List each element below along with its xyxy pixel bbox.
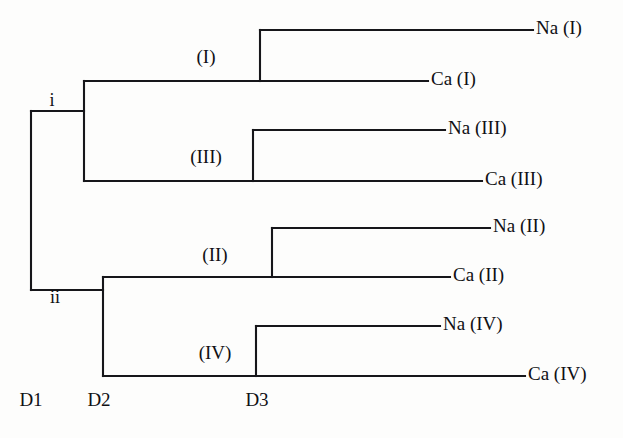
leaf-ca-4-label: Ca (IV) xyxy=(528,363,587,385)
node-group-i-label: i xyxy=(49,90,54,110)
leaf-na-3-label: Na (III) xyxy=(448,117,507,139)
leaf-label-group: Na (I)Ca (I)Na (III)Ca (III)Na (II)Ca (I… xyxy=(431,17,587,385)
node-clade-2-label: (II) xyxy=(202,244,227,266)
leaf-na-4-label: Na (IV) xyxy=(443,313,503,335)
node-clade-3-label: (III) xyxy=(190,146,222,168)
node-clade-1-label: (I) xyxy=(197,46,216,68)
leaf-ca-1-label: Ca (I) xyxy=(431,68,476,90)
clade-node-branches xyxy=(84,30,272,376)
dendrogram-canvas: Na (I)Ca (I)Na (III)Ca (III)Na (II)Ca (I… xyxy=(0,0,623,438)
node-group-ii-label: ii xyxy=(50,287,60,307)
group-node-branches xyxy=(31,81,103,376)
tick-d2-label: D2 xyxy=(87,389,110,410)
clade-label-group: (I)(III)(II)(IV) xyxy=(190,46,231,364)
group-label-group: iii xyxy=(49,90,60,307)
tick-d3-label: D3 xyxy=(245,389,268,410)
distance-axis-label-group: D1D2D3 xyxy=(19,389,268,410)
tick-d1-label: D1 xyxy=(19,389,42,410)
leaf-ca-2-label: Ca (II) xyxy=(453,264,504,286)
dendrogram-figure: Na (I)Ca (I)Na (III)Ca (III)Na (II)Ca (I… xyxy=(0,0,623,438)
leaf-na-2-label: Na (II) xyxy=(493,215,545,237)
node-clade-4-label: (IV) xyxy=(199,342,232,364)
leaf-ca-3-label: Ca (III) xyxy=(485,168,543,190)
leaf-na-1-label: Na (I) xyxy=(536,17,582,39)
